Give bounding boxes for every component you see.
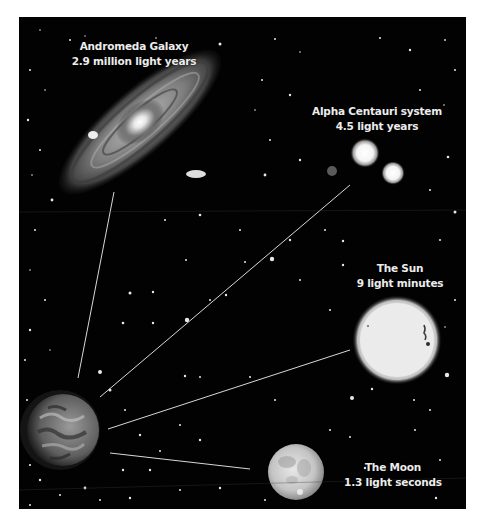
label-moon: The Moon 1.3 light seconds <box>333 460 453 490</box>
star-system-icon <box>327 138 405 185</box>
moon-icon <box>268 444 324 500</box>
line-to-moon <box>110 453 250 469</box>
label-alpha-centauri: Alpha Centauri system 4.5 light years <box>302 104 452 134</box>
label-andromeda: Andromeda Galaxy 2.9 million light years <box>55 39 213 69</box>
distance-lines <box>78 185 350 469</box>
object-name: Alpha Centauri system <box>302 104 452 119</box>
line-to-alpha-centauri <box>100 185 350 397</box>
object-distance: 1.3 light seconds <box>333 475 453 490</box>
object-distance: 2.9 million light years <box>55 54 213 69</box>
space-distance-illustration: Andromeda Galaxy 2.9 million light years… <box>19 17 466 509</box>
object-name: The Sun <box>340 261 460 276</box>
object-name: The Moon <box>333 460 453 475</box>
satellite-galaxy-m32 <box>88 131 98 139</box>
satellite-galaxy-m110 <box>186 170 206 178</box>
label-sun: The Sun 9 light minutes <box>340 261 460 291</box>
object-distance: 4.5 light years <box>302 119 452 134</box>
object-name: Andromeda Galaxy <box>55 39 213 54</box>
line-to-andromeda <box>78 192 114 378</box>
object-distance: 9 light minutes <box>340 276 460 291</box>
line-to-sun <box>108 350 350 429</box>
earth-icon <box>20 390 100 470</box>
sun-icon <box>352 295 442 385</box>
